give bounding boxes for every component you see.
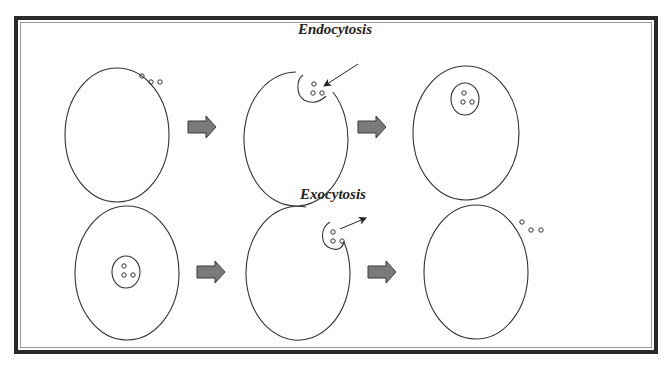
process-arrow-icon — [188, 116, 216, 138]
exocytosis-row — [75, 205, 543, 340]
exo-step1-cell — [75, 206, 179, 340]
exo-step2-cell — [246, 206, 366, 340]
endo-step1-cell — [65, 68, 169, 202]
diagram-canvas — [0, 0, 664, 366]
process-arrow-icon — [368, 261, 396, 283]
process-arrow-icon — [197, 261, 225, 283]
exo-step3-cell — [424, 205, 543, 339]
inward-arrow-icon — [324, 64, 358, 86]
endo-step3-cell — [413, 66, 519, 200]
outward-arrow-icon — [340, 218, 366, 229]
endo-step2-cell — [244, 64, 358, 206]
endocytosis-row — [65, 64, 519, 206]
process-arrow-icon — [358, 116, 386, 138]
particles — [140, 74, 162, 84]
